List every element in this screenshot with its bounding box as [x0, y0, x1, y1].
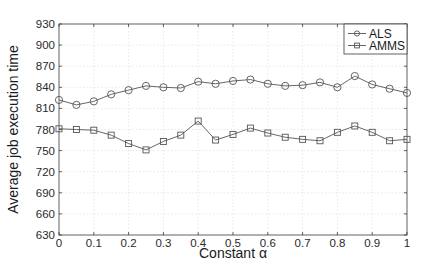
y-tick-label: 900	[36, 39, 55, 51]
x-tick-label: 0.2	[121, 237, 137, 249]
y-tick-label: 870	[36, 60, 55, 72]
y-tick-label: 720	[36, 166, 55, 178]
series-line	[59, 121, 407, 150]
x-tick-label: 0.1	[86, 237, 102, 249]
y-tick-label: 660	[36, 208, 55, 220]
x-tick-label: 0.7	[295, 237, 311, 249]
y-axis-tick-labels: 630660690720750780810840870900930	[36, 18, 55, 241]
x-tick-label: 0.8	[329, 237, 345, 249]
y-tick-label: 810	[36, 102, 55, 114]
x-tick-label: 0	[56, 237, 62, 249]
x-tick-label: 1	[404, 237, 410, 249]
legend-label-amms: AMMS	[369, 39, 405, 53]
y-tick-label: 780	[36, 124, 55, 136]
x-tick-label: 0.9	[364, 237, 380, 249]
x-axis-label: Constant α	[199, 245, 267, 261]
legend: ALS AMMS	[344, 24, 407, 54]
y-tick-label: 930	[36, 18, 55, 30]
y-tick-label: 750	[36, 145, 55, 157]
y-axis-label: Average job execution time	[5, 45, 21, 214]
line-chart: 630660690720750780810840870900930 00.10.…	[0, 0, 429, 274]
x-tick-label: 0.3	[155, 237, 171, 249]
y-tick-label: 630	[36, 229, 55, 241]
grid-lines	[59, 24, 407, 235]
y-tick-label: 690	[36, 187, 55, 199]
y-tick-label: 840	[36, 81, 55, 93]
